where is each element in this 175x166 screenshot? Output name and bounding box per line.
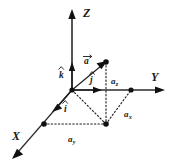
y-axis-point-dot [128,87,133,92]
unit-vector-i-label: i [64,104,67,114]
projection-construction-lines [44,62,131,124]
component-ax-subscript: x [128,113,132,120]
xy-projection-point-dot [103,121,109,127]
x-axis-point-dot [41,121,47,127]
component-labels: az ax ay [68,76,132,145]
origin-point-dot [69,87,74,92]
unit-vector-i-arrowhead-icon [52,104,62,112]
unit-vector-k-label: k [59,70,64,80]
vector-a-line [72,66,101,90]
unit-vector-i-group: i [52,90,72,114]
z-axis-label: Z [82,6,91,20]
unit-vector-k-arrowhead-icon [69,62,75,71]
component-ay-label: ay [68,134,76,145]
point-markers [41,59,133,127]
x-axis-arrowhead-icon [12,149,23,159]
component-ay-subscript: y [72,138,76,145]
vector-tip-point-dot [103,59,109,65]
unit-vector-j-arrowhead-icon [93,87,102,93]
y-axis-arrowhead-icon [155,86,165,93]
component-az-label: az [111,76,119,87]
component-az-subscript: z [115,80,119,87]
z-axis-arrowhead-icon [68,9,75,19]
component-ax-label: ax [124,109,132,120]
y-axis-label: Y [151,70,160,84]
vector-diagram-figure: Z Y X a k [0,0,175,166]
vector-a-label: a [84,56,89,66]
coordinate-system-diagram: Z Y X a k [0,0,175,166]
x-axis-label: X [11,129,21,143]
unit-vector-j-group: j [72,72,102,94]
xy-diagonal-line [72,90,106,124]
